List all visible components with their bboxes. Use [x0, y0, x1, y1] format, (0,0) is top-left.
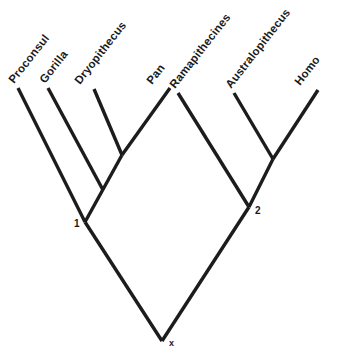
cladogram-canvas: ProconsulGorillaDryopithecusPanRamapithe… [0, 0, 345, 353]
cladogram-diagram: ProconsulGorillaDryopithecusPanRamapithe… [0, 0, 345, 353]
diagram-background [0, 0, 345, 353]
node-label-2: 2 [255, 205, 261, 216]
node-label-x: x [169, 338, 174, 348]
node-label-1: 1 [74, 218, 80, 229]
